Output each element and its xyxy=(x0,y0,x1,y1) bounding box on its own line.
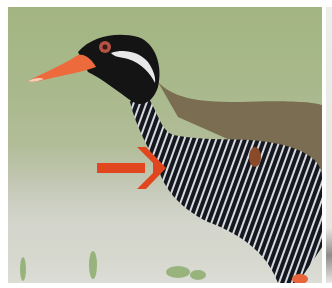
bird-illustration xyxy=(8,7,322,283)
adjacent-photo-edge xyxy=(326,7,332,283)
bird-photo xyxy=(8,7,322,283)
rufous-patch xyxy=(249,147,261,167)
bill xyxy=(28,55,96,82)
